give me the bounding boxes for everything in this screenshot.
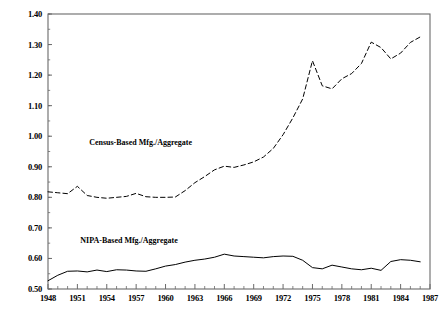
series-label-census: Census-Based Mfg./Aggregate (89, 138, 192, 147)
series-line-census (48, 37, 420, 198)
x-tick-label: 1954 (92, 293, 122, 303)
x-tick-label: 1966 (209, 293, 239, 303)
x-tick-label: 1987 (415, 293, 445, 303)
x-axis-ticks (48, 284, 430, 289)
x-tick-label: 1975 (297, 293, 327, 303)
y-tick-label: 1.40 (14, 9, 42, 19)
x-tick-label: 1948 (33, 293, 63, 303)
y-tick-label: 1.10 (14, 101, 42, 111)
x-tick-label: 1951 (62, 293, 92, 303)
x-tick-label: 1981 (356, 293, 386, 303)
plot-frame (48, 14, 430, 289)
y-tick-label: 0.90 (14, 162, 42, 172)
y-tick-label: 0.80 (14, 192, 42, 202)
figure-container: 1.401.301.201.101.000.900.800.700.600.50… (0, 0, 447, 318)
x-tick-label: 1963 (180, 293, 210, 303)
x-tick-label: 1960 (151, 293, 181, 303)
y-tick-label: 1.20 (14, 70, 42, 80)
x-tick-label: 1984 (386, 293, 416, 303)
series-label-nipa: NIPA-Based Mfg./Aggregate (80, 236, 177, 245)
y-axis-ticks (48, 14, 52, 289)
y-tick-label: 0.70 (14, 223, 42, 233)
x-tick-label: 1969 (239, 293, 269, 303)
chart-canvas (0, 0, 447, 318)
x-tick-label: 1972 (268, 293, 298, 303)
y-tick-label: 0.60 (14, 253, 42, 263)
y-tick-label: 1.00 (14, 131, 42, 141)
x-tick-label: 1957 (121, 293, 151, 303)
series-line-nipa (48, 254, 420, 281)
x-tick-label: 1978 (327, 293, 357, 303)
y-tick-label: 1.30 (14, 40, 42, 50)
